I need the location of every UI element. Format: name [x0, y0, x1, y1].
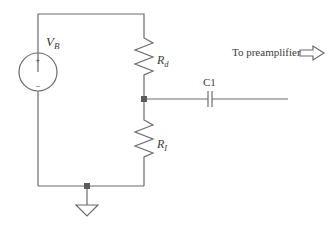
junction-node-ground: [84, 183, 90, 189]
resistor-rd-zigzag: [135, 33, 153, 99]
resistor-ri: RI: [135, 102, 168, 186]
resistor-ri-label: RI: [156, 137, 168, 153]
capacitor-label: C1: [203, 76, 216, 88]
resistor-rd: Rd: [135, 33, 169, 99]
circuit-diagram: + − VB Rd C1 RI To preamplifie: [0, 0, 329, 230]
ground-icon: [76, 189, 98, 216]
output-destination-label: To preamplifier: [232, 46, 301, 58]
voltage-source-plus: +: [36, 56, 41, 65]
resistor-ri-zigzag: [135, 102, 153, 186]
voltage-source-minus: −: [35, 81, 40, 91]
right-hollow-arrow-icon: [300, 46, 324, 60]
junction-node-output: [141, 96, 147, 102]
voltage-source-label: VB: [46, 34, 60, 51]
capacitor-c1: C1: [203, 76, 216, 107]
resistor-rd-label: Rd: [156, 53, 169, 69]
voltage-source: + − VB: [19, 34, 60, 91]
